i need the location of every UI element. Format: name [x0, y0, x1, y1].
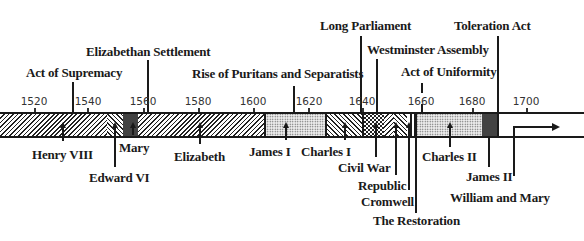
tick-label-1620: 1620	[296, 95, 323, 107]
tick-label-1680: 1680	[459, 95, 486, 107]
event-label-long-parliament: Long Parliament	[320, 18, 411, 34]
segment-james-ii	[482, 113, 497, 137]
tick-label-1580: 1580	[185, 95, 212, 107]
segment-divider	[325, 113, 327, 137]
reign-label-civil-war: Civil War	[338, 160, 391, 176]
reign-line-elizabeth	[199, 127, 201, 144]
tick-label-1700: 1700	[513, 95, 540, 107]
arrow-right-icon	[552, 123, 560, 131]
event-label-westminster-assembly: Westminster Assembly	[367, 42, 489, 58]
tick-label-1600: 1600	[240, 95, 267, 107]
segment-divider	[362, 113, 364, 137]
reign-label-charles-ii: Charles II	[422, 149, 477, 165]
reign-line-civil-war	[375, 127, 377, 157]
tick-label-1560: 1560	[130, 95, 157, 107]
event-label-act-of-supremacy: Act of Supremacy	[26, 65, 122, 81]
timeline-bar-top-border	[0, 112, 584, 114]
event-label-elizabethan-settlement: Elizabethan Settlement	[86, 44, 211, 60]
event-line-westminster-assembly	[376, 59, 378, 113]
reign-label-mary: Mary	[119, 140, 149, 156]
reign-line-mary	[132, 127, 134, 135]
reign-label-republic: Republic	[358, 178, 406, 194]
reign-label-edward-vi: Edward VI	[89, 170, 149, 186]
reign-line-charles-i	[344, 127, 346, 140]
event-line-toleration-act	[497, 36, 499, 113]
reign-line-restoration	[415, 113, 417, 213]
reign-label-cromwell: Cromwell	[361, 194, 414, 210]
reign-label-james-i: James I	[249, 144, 291, 160]
reign-line-republic	[395, 127, 397, 175]
segment-divider	[264, 113, 266, 137]
reign-label-henry-viii: Henry VIII	[32, 147, 93, 163]
tick-label-1540: 1540	[75, 95, 102, 107]
reign-line-james-ii	[488, 137, 490, 167]
segment-james-i	[264, 113, 325, 137]
event-label-rise-of-puritans: Rise of Puritans and Separatists	[192, 66, 363, 82]
reign-line-cromwell	[408, 127, 410, 190]
reign-label-william-and-mary: William and Mary	[450, 190, 550, 206]
timeline-bar-bottom-border	[0, 136, 584, 138]
reign-label-elizabeth: Elizabeth	[174, 149, 225, 165]
william-and-mary-line	[513, 126, 515, 176]
tick-label-1520: 1520	[21, 95, 48, 107]
event-label-toleration-act: Toleration Act	[454, 18, 531, 34]
segment-henry-viii	[0, 113, 107, 137]
event-label-act-of-uniformity: Act of Uniformity	[401, 64, 497, 80]
event-line-act-of-uniformity	[421, 83, 423, 93]
reign-label-james-ii: James II	[466, 169, 512, 185]
reign-line-edward-vi	[114, 127, 116, 167]
reign-line-henry-viii	[62, 127, 64, 141]
reign-label-charles-i: Charles I	[301, 144, 351, 160]
tick-label-1640: 1640	[349, 95, 376, 107]
william-and-mary-arrow-shaft	[513, 126, 553, 128]
reign-line-charles-ii	[449, 127, 451, 147]
segment-divider	[497, 113, 499, 137]
reign-line-james-i	[285, 127, 287, 140]
reign-label-restoration: The Restoration	[373, 213, 460, 229]
tick-label-1660: 1660	[408, 95, 435, 107]
